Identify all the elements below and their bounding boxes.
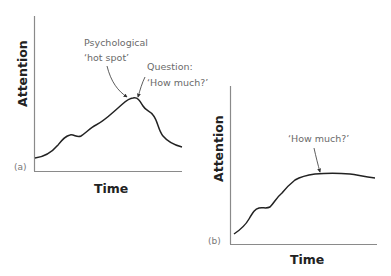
annotation-question-line2: ‘How much?’: [147, 77, 208, 88]
annotation-how-much: ‘How much?’: [288, 133, 349, 144]
x-axis-label-a: Time: [94, 181, 128, 196]
panel-label-a: (a): [14, 162, 27, 172]
panel-label-b: (b): [208, 236, 221, 246]
arrow-how-much: [314, 148, 320, 172]
annotation-question-line1: Question:: [147, 61, 193, 72]
arrow-hot-spot: [107, 66, 127, 97]
annotation-hot-spot-line2: ‘hot spot’: [84, 52, 129, 63]
y-axis-label-a: Attention: [15, 40, 30, 107]
figure: Psychological ‘hot spot’ Question: ‘How …: [0, 0, 391, 276]
attention-curve-b: [234, 173, 375, 234]
attention-curve-a: [35, 98, 182, 158]
panel-a: Psychological ‘hot spot’ Question: ‘How …: [14, 16, 208, 196]
annotation-hot-spot-line1: Psychological: [84, 37, 148, 48]
y-axis-label-b: Attention: [211, 115, 226, 182]
x-axis-label-b: Time: [290, 252, 324, 267]
panel-b: ‘How much?’ Attention Time (b): [208, 86, 377, 267]
arrow-question: [138, 77, 145, 97]
